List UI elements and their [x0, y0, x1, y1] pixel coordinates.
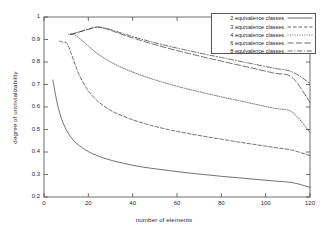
chart-figure: 020406080100120 0.20.30.40.50.60.70.80.9…	[0, 0, 328, 233]
x-tick-label: 120	[298, 200, 322, 206]
legend-line-sample	[287, 15, 313, 21]
y-tick-label: 0.5	[16, 126, 40, 132]
x-axis-title: number of elements	[0, 216, 328, 223]
legend-label: 8 equivalence classes	[230, 48, 284, 54]
legend-line-sample	[287, 48, 313, 54]
legend-entry: 2 equivalence classes	[212, 15, 315, 23]
x-tick-label: 20	[76, 200, 100, 206]
legend-line-sample	[287, 32, 313, 38]
legend-line-sample	[287, 40, 313, 46]
legend: 2 equivalence classes3 equivalence class…	[211, 13, 316, 54]
y-tick-label: 0.9	[16, 36, 40, 42]
legend-label: 2 equivalence classes	[230, 15, 284, 21]
x-tick-label: 60	[165, 200, 189, 206]
x-tick-label: 80	[209, 200, 233, 206]
legend-entry: 4 equivalence classes	[212, 31, 315, 39]
legend-entry: 8 equivalence classes	[212, 47, 315, 55]
y-tick-label: 1	[16, 13, 40, 19]
legend-line-sample	[287, 24, 313, 30]
legend-entry: 3 equivalence classes	[212, 23, 315, 31]
y-axis-title: degree of untrivializability	[11, 48, 18, 168]
y-tick-label: 0.2	[16, 193, 40, 199]
legend-label: 4 equivalence classes	[230, 32, 284, 38]
y-tick-label: 0.3	[16, 171, 40, 177]
series-line-2	[60, 41, 310, 156]
legend-label: 3 equivalence classes	[230, 24, 284, 30]
x-tick-label: 40	[121, 200, 145, 206]
legend-entry: 6 equivalence classes	[212, 39, 315, 47]
x-tick-label: 100	[254, 200, 278, 206]
y-tick-label: 0.4	[16, 148, 40, 154]
series-line-1	[53, 80, 310, 187]
y-tick-label: 0.8	[16, 58, 40, 64]
y-tick-label: 0.7	[16, 81, 40, 87]
x-tick-label: 0	[32, 200, 56, 206]
legend-label: 6 equivalence classes	[230, 40, 284, 46]
y-tick-label: 0.6	[16, 103, 40, 109]
